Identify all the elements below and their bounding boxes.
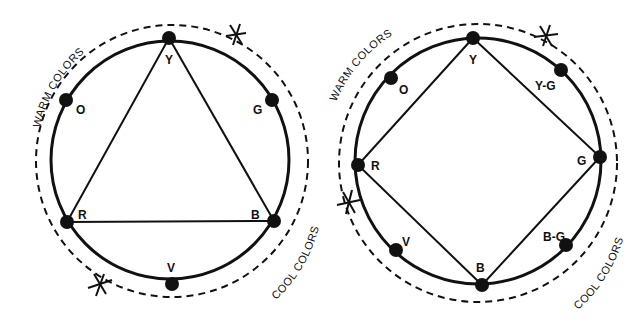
- color-dot-r: [351, 158, 365, 172]
- warm-colors-label: WARM COLORS: [327, 26, 394, 103]
- label-o: O: [76, 103, 85, 117]
- color-dot-v: [389, 243, 403, 257]
- label-y: Y: [165, 53, 173, 67]
- color-dot-v: [165, 277, 179, 291]
- color-dot-o: [59, 93, 73, 107]
- label-y: Y: [469, 53, 477, 67]
- label-g: G: [253, 103, 262, 117]
- label-b: B: [476, 261, 485, 275]
- tetrad-diagram: Y Y-G G B-G B V R O WARM COLORS COOL COL…: [327, 24, 625, 312]
- color-dot-b: [267, 214, 281, 228]
- label-v: V: [167, 261, 175, 275]
- color-dot-g: [593, 150, 607, 164]
- color-dot-o: [384, 71, 398, 85]
- cool-colors-label: COOL COLORS: [571, 235, 625, 311]
- label-r: R: [78, 208, 87, 222]
- label-o: O: [399, 83, 408, 97]
- color-dot-r: [60, 215, 74, 229]
- cool-colors-label: COOL COLORS: [269, 224, 321, 301]
- color-dot-y: [162, 31, 176, 45]
- triad-diagram: Y G B V R O WARM COLORS COOL COLORS: [30, 24, 321, 301]
- break-mark-icon: [337, 190, 360, 214]
- color-points: [351, 31, 607, 292]
- label-yg: Y-G: [535, 79, 556, 93]
- color-wheel-circle: [51, 41, 289, 279]
- break-mark-icon: [226, 24, 246, 45]
- color-dot-yg: [554, 63, 568, 77]
- label-r: R: [371, 159, 380, 173]
- color-wheel-diagrams: Y G B V R O WARM COLORS COOL COLORS: [0, 0, 639, 322]
- label-bg: B-G: [543, 230, 565, 244]
- label-b: B: [251, 208, 260, 222]
- color-dot-b: [475, 278, 489, 292]
- color-dot-y: [466, 31, 480, 45]
- label-v: V: [402, 235, 410, 249]
- color-dot-g: [265, 93, 279, 107]
- label-g: G: [577, 154, 586, 168]
